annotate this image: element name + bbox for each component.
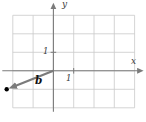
x-axis-label: x: [131, 57, 136, 66]
terminal-point-dot: [5, 87, 9, 91]
coordinate-plane: [0, 0, 146, 122]
vector-figure: y x 1 1 b: [0, 0, 146, 122]
y-axis-label: y: [62, 0, 67, 9]
vector-b-label: b: [35, 76, 42, 85]
y-tick-label-1: 1: [43, 47, 48, 56]
x-tick-label-1: 1: [66, 74, 71, 83]
